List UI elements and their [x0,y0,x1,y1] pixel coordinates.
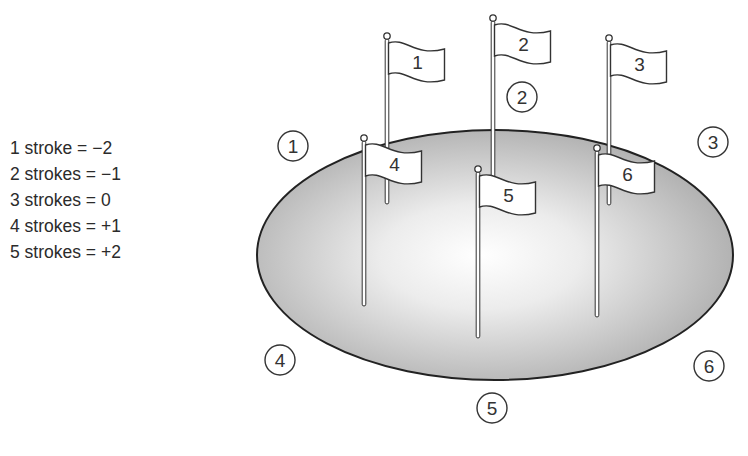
svg-text:2: 2 [517,87,528,108]
svg-text:3: 3 [708,132,719,153]
flag-number: 3 [634,54,645,75]
flagpole-ball [606,35,612,41]
flag-number: 1 [412,52,423,73]
flagpole-ball [594,145,600,151]
flagpole-ball [490,15,496,21]
svg-text:1: 1 [288,136,299,157]
flag-number: 6 [622,164,633,185]
svg-text:4: 4 [275,350,286,371]
flagpole-ball [475,166,481,172]
position-marker-2: 2 [507,82,537,112]
flagpole-ball [384,33,390,39]
flag-number: 5 [503,185,514,206]
position-marker-3: 3 [698,127,728,157]
flag-number: 2 [518,34,529,55]
flagpole-ball [361,135,367,141]
position-marker-5: 5 [477,393,507,423]
svg-text:6: 6 [704,356,715,377]
golf-green-diagram: 123456 123456 [0,0,748,456]
flag-number: 4 [389,154,400,175]
position-marker-1: 1 [278,131,308,161]
position-marker-4: 4 [265,345,295,375]
position-marker-6: 6 [694,351,724,381]
svg-text:5: 5 [487,398,498,419]
